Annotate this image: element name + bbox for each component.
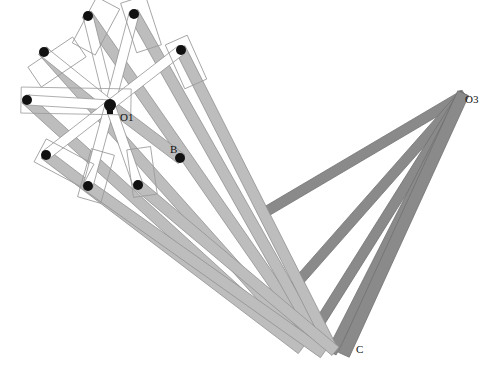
joint-left-3: [41, 150, 51, 160]
hub-o1-stem: [107, 105, 113, 114]
label-o3: O3: [465, 93, 479, 105]
joint-bottom-2: [133, 180, 143, 190]
joint-top-1: [83, 11, 93, 21]
joint-right-upper: [176, 45, 186, 55]
light-bar-group: [22, 10, 339, 358]
joint-left-2: [22, 95, 32, 105]
linkage-canvas: O1BO3C: [0, 0, 486, 375]
label-c: C: [356, 343, 363, 355]
joint-top-2: [129, 9, 139, 19]
label-o1: O1: [120, 111, 133, 123]
joint-left-1: [39, 47, 49, 57]
joint-bottom-1: [83, 181, 93, 191]
label-b: B: [170, 143, 177, 155]
linkage-diagram: O1BO3C: [0, 0, 486, 375]
